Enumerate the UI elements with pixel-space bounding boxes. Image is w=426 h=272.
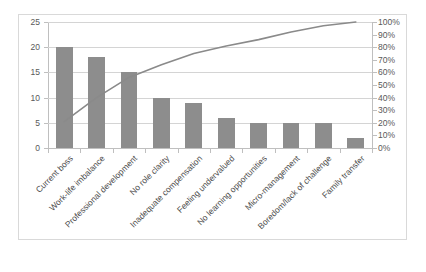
x-axis-tick-mark	[145, 149, 146, 153]
y-axis-right-tick-mark	[373, 148, 377, 149]
y-axis-right-tick-label: 90%	[378, 31, 412, 40]
x-axis-tick-mark	[80, 149, 81, 153]
x-axis-tick-mark	[307, 149, 308, 153]
x-axis-tick-mark	[340, 149, 341, 153]
cumulative-line-series	[48, 22, 372, 148]
y-axis-right-tick-mark	[373, 60, 377, 61]
y-axis-right-tick-label: 0%	[378, 144, 412, 153]
y-axis-right-tick-mark	[373, 85, 377, 86]
y-axis-left-tick-label: 25	[0, 18, 40, 27]
y-axis-right-tick-label: 20%	[378, 119, 412, 128]
x-axis-tick-mark	[210, 149, 211, 153]
y-axis-right-tick-label: 100%	[378, 18, 412, 27]
y-axis-left-tick-label: 0	[0, 144, 40, 153]
y-axis-right-tick-mark	[373, 135, 377, 136]
y-axis-right-tick-label: 10%	[378, 131, 412, 140]
y-axis-right-tick-label: 30%	[378, 106, 412, 115]
y-axis-right-tick-mark	[373, 98, 377, 99]
y-axis-right-tick-mark	[373, 123, 377, 124]
x-axis-tick-mark	[48, 149, 49, 153]
x-axis-tick-mark	[372, 149, 373, 153]
y-axis-right-tick-label: 50%	[378, 81, 412, 90]
y-axis-left-tick-label: 5	[0, 119, 40, 128]
y-axis-right-tick-mark	[373, 47, 377, 48]
y-axis-left-tick-label: 15	[0, 68, 40, 77]
y-axis-right-tick-label: 60%	[378, 68, 412, 77]
y-axis-right-tick-mark	[373, 22, 377, 23]
y-axis-right-tick-mark	[373, 35, 377, 36]
pareto-chart: 0510152025 0%10%20%30%40%50%60%70%80%90%…	[0, 0, 426, 272]
y-axis-right-tick-label: 80%	[378, 43, 412, 52]
y-axis-right-tick-mark	[373, 110, 377, 111]
cumulative-line-path	[64, 22, 356, 122]
y-axis-left-tick-label: 20	[0, 43, 40, 52]
x-axis-tick-mark	[242, 149, 243, 153]
x-axis-tick-mark	[275, 149, 276, 153]
x-axis-tick-mark	[178, 149, 179, 153]
y-axis-right-tick-label: 70%	[378, 56, 412, 65]
y-axis-right-tick-mark	[373, 72, 377, 73]
x-axis-tick-mark	[113, 149, 114, 153]
y-axis-left-tick-label: 10	[0, 94, 40, 103]
y-axis-right-tick-label: 40%	[378, 94, 412, 103]
